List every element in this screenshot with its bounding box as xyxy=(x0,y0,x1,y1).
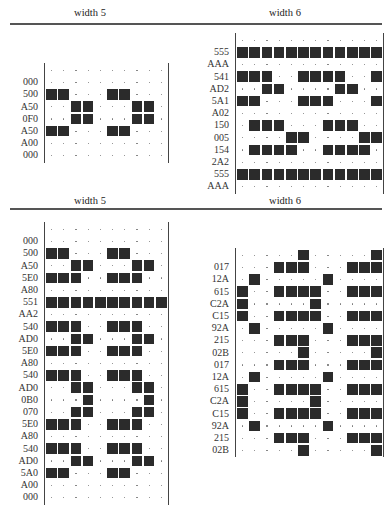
empty-cell-dot xyxy=(94,382,106,394)
filled-cell xyxy=(261,119,273,131)
empty-cell-dot xyxy=(334,444,346,456)
empty-cell-dot xyxy=(58,479,70,491)
empty-cell-dot xyxy=(298,371,310,383)
empty-cell-dot xyxy=(46,137,58,149)
filled-cell xyxy=(298,334,310,346)
filled-cell xyxy=(107,443,119,455)
filled-cell xyxy=(249,322,261,334)
filled-cell xyxy=(371,71,383,83)
empty-cell-dot xyxy=(119,149,131,161)
empty-cell-dot xyxy=(155,357,167,369)
row-label: A80 xyxy=(8,357,38,369)
empty-cell-dot xyxy=(107,64,119,76)
empty-cell-dot xyxy=(143,247,155,259)
empty-cell-dot xyxy=(155,308,167,320)
empty-cell-dot xyxy=(310,180,322,192)
filled-cell xyxy=(273,432,285,444)
empty-cell-dot xyxy=(310,249,322,261)
filled-cell xyxy=(298,71,310,83)
empty-cell-dot xyxy=(249,261,261,273)
filled-cell xyxy=(298,383,310,395)
empty-cell-dot xyxy=(94,418,106,430)
empty-cell-dot xyxy=(119,101,131,113)
empty-cell-dot xyxy=(249,34,261,46)
row-label: AD0 xyxy=(8,455,38,467)
empty-cell-dot xyxy=(143,76,155,88)
filled-cell xyxy=(237,395,249,407)
empty-cell-dot xyxy=(155,284,167,296)
empty-cell-dot xyxy=(359,249,371,261)
empty-cell-dot xyxy=(46,149,58,161)
row-label: 5E0 xyxy=(8,272,38,284)
empty-cell-dot xyxy=(58,235,70,247)
filled-cell xyxy=(322,95,334,107)
filled-cell xyxy=(298,347,310,359)
filled-cell xyxy=(237,408,249,420)
row-label: C15 xyxy=(199,408,229,420)
empty-cell-dot xyxy=(310,420,322,432)
filled-cell xyxy=(70,260,82,272)
empty-cell-dot xyxy=(94,137,106,149)
filled-cell xyxy=(298,168,310,180)
filled-cell xyxy=(119,125,131,137)
empty-cell-dot xyxy=(346,180,358,192)
empty-cell-dot xyxy=(82,247,94,259)
empty-cell-dot xyxy=(359,119,371,131)
filled-cell xyxy=(346,432,358,444)
filled-cell xyxy=(310,95,322,107)
empty-cell-dot xyxy=(131,149,143,161)
empty-cell-dot xyxy=(46,382,58,394)
empty-cell-dot xyxy=(273,132,285,144)
empty-cell-dot xyxy=(322,395,334,407)
empty-cell-dot xyxy=(94,113,106,125)
filled-cell xyxy=(119,369,131,381)
empty-cell-dot xyxy=(82,467,94,479)
empty-cell-dot xyxy=(94,64,106,76)
filled-cell xyxy=(46,443,58,455)
filled-cell xyxy=(310,383,322,395)
empty-cell-dot xyxy=(249,359,261,371)
empty-cell-dot xyxy=(82,76,94,88)
empty-cell-dot xyxy=(58,223,70,235)
empty-cell-dot xyxy=(334,432,346,444)
row-label: A00 xyxy=(8,479,38,491)
empty-cell-dot xyxy=(94,101,106,113)
row-label: 000 xyxy=(8,76,38,88)
filled-cell xyxy=(273,359,285,371)
empty-cell-dot xyxy=(94,357,106,369)
empty-cell-dot xyxy=(155,223,167,235)
empty-cell-dot xyxy=(46,308,58,320)
empty-cell-dot xyxy=(107,455,119,467)
empty-cell-dot xyxy=(298,107,310,119)
empty-cell-dot xyxy=(273,420,285,432)
empty-cell-dot xyxy=(322,249,334,261)
filled-cell xyxy=(237,310,249,322)
filled-cell xyxy=(131,443,143,455)
empty-cell-dot xyxy=(371,420,383,432)
empty-cell-dot xyxy=(285,444,297,456)
empty-cell-dot xyxy=(143,125,155,137)
row-label: 555 xyxy=(199,168,229,180)
filled-cell xyxy=(298,359,310,371)
empty-cell-dot xyxy=(261,432,273,444)
empty-cell-dot xyxy=(273,34,285,46)
filled-cell xyxy=(322,168,334,180)
filled-cell xyxy=(261,46,273,58)
empty-cell-dot xyxy=(82,321,94,333)
empty-cell-dot xyxy=(155,88,167,100)
empty-cell-dot xyxy=(371,298,383,310)
empty-cell-dot xyxy=(155,247,167,259)
filled-cell xyxy=(70,296,82,308)
filled-cell xyxy=(70,443,82,455)
empty-cell-dot xyxy=(94,149,106,161)
empty-cell-dot xyxy=(143,149,155,161)
filled-cell xyxy=(322,46,334,58)
empty-cell-dot xyxy=(310,432,322,444)
filled-cell xyxy=(249,95,261,107)
empty-cell-dot xyxy=(94,260,106,272)
empty-cell-dot xyxy=(310,359,322,371)
empty-cell-dot xyxy=(143,369,155,381)
row-label: 5E0 xyxy=(8,345,38,357)
empty-cell-dot xyxy=(298,420,310,432)
empty-cell-dot xyxy=(94,321,106,333)
